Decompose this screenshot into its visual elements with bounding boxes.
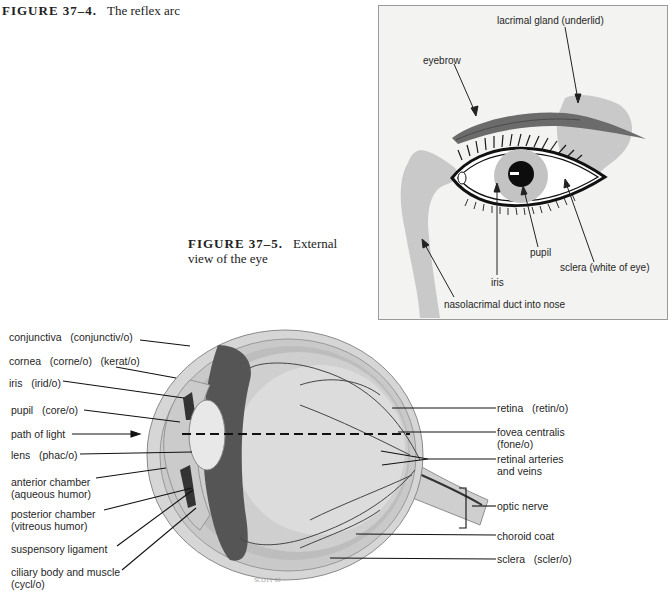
label-path-of-light: path of light [11,428,65,440]
label-iris: iris (irid/o) [9,377,61,389]
svg-text:SCOTT 98: SCOTT 98 [254,577,280,583]
label-pupil: pupil [530,247,551,259]
label-line2: (aqueous humor) [11,488,91,500]
label-lens: lens (phac/o) [11,449,78,461]
label-line2: and veins [497,465,542,477]
label-sclera-white: sclera (white of eye) [560,262,649,274]
label-lacrimal-gland: lacrimal gland (underlid) [497,15,604,27]
label-conjunctiva: conjunctiva (conjunctiv/o) [9,331,133,343]
label-iris-external: iris [491,277,504,289]
label-line1: retinal arteries [497,453,564,465]
label-line2: (fone/o) [497,438,533,450]
eye-cross-section-illustration: SCOTT 98 [63,330,496,583]
label-eyebrow: eyebrow [423,55,461,67]
label-line1: ciliary body and muscle [11,566,120,578]
label-sclera: sclera (scler/o) [497,553,572,565]
label-suspensory-ligament: suspensory ligament [11,543,107,555]
label-line2: (vitreous humor) [11,520,87,532]
label-optic-nerve: optic nerve [497,500,548,512]
label-nasolacrimal-duct: nasolacrimal duct into nose [444,299,565,311]
label-retinal-arteries: retinal arteries and veins [497,453,564,477]
label-posterior-chamber: posterior chamber (vitreous humor) [11,508,96,532]
label-line1: fovea centralis [497,426,565,438]
label-cornea: cornea (corne/o) (kerat/o) [9,355,140,367]
label-anterior-chamber: anterior chamber (aqueous humor) [11,476,91,500]
label-retina: retina (retin/o) [497,402,568,414]
label-pupil-cross: pupil (core/o) [11,404,78,416]
external-eye-illustration [401,27,646,318]
label-ciliary-body: ciliary body and muscle (cycl/o) [11,566,120,590]
label-line1: posterior chamber [11,508,96,520]
label-choroid-coat: choroid coat [497,530,554,542]
label-fovea-centralis: fovea centralis (fone/o) [497,426,565,450]
label-line1: anterior chamber [11,476,90,488]
label-line2: (cycl/o) [11,578,45,590]
